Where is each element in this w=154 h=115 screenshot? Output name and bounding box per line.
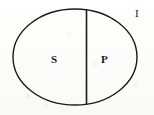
label-predicate-region-p: P — [101, 54, 108, 65]
universal-set-ellipse — [13, 9, 137, 105]
label-subject-region-s: S — [51, 54, 57, 65]
label-outside-region-i: I — [135, 8, 139, 19]
diagram-canvas — [0, 0, 154, 115]
set-diagram-figure: S P I — [0, 0, 154, 115]
